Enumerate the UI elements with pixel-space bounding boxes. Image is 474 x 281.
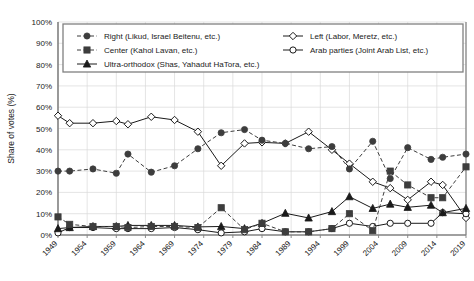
data-point-marker <box>329 226 335 232</box>
data-point-marker <box>67 168 73 174</box>
data-point-marker <box>346 193 353 200</box>
x-axis-tick-label: 1954 <box>70 239 89 258</box>
data-point-marker <box>194 128 201 135</box>
data-point-marker <box>148 169 154 175</box>
legend-label-right: Right (Likud, Israel Beitenu, etc.) <box>104 32 220 41</box>
data-point-marker <box>148 113 155 120</box>
legend-label-ultra_orthodox: Ultra-orthodox (Shas, Yahadut HaTora, et… <box>104 60 260 69</box>
data-point-marker <box>90 166 96 172</box>
data-point-marker <box>84 47 90 53</box>
data-point-marker <box>55 214 61 220</box>
x-axis-tick-label: 1994 <box>303 239 322 258</box>
data-point-marker <box>428 195 434 201</box>
x-axis-tick-label: 1974 <box>186 239 205 258</box>
y-axis-tick-label: 10% <box>36 210 52 219</box>
y-axis-tick-label: 90% <box>36 39 52 48</box>
y-axis-tick-label: 20% <box>36 188 52 197</box>
data-point-marker <box>195 224 201 230</box>
data-point-marker <box>387 200 394 207</box>
x-axis-tick-label: 1949 <box>40 239 59 258</box>
data-point-marker <box>90 223 96 229</box>
x-axis-tick-label: 1999 <box>332 239 351 258</box>
data-point-marker <box>67 221 73 227</box>
x-axis-tick-label: 1979 <box>215 239 234 258</box>
legend-label-left: Left (Labor, Meretz, etc.) <box>310 32 397 41</box>
data-point-marker <box>113 170 119 176</box>
data-point-marker <box>55 168 61 174</box>
data-point-marker <box>259 220 265 226</box>
y-axis-tick-labels: 0%10%20%30%40%50%60%70%80%90%100% <box>32 18 52 240</box>
data-point-marker <box>387 175 393 181</box>
data-point-marker <box>387 168 393 174</box>
data-point-marker <box>370 228 376 234</box>
y-axis-tick-label: 80% <box>36 61 52 70</box>
legend-label-arab: Arab parties (Joint Arab List, etc.) <box>310 46 429 55</box>
x-axis-tick-label: 1984 <box>244 239 263 258</box>
data-point-marker <box>440 154 446 160</box>
y-axis-tick-label: 40% <box>36 146 52 155</box>
data-point-marker <box>171 116 178 123</box>
x-axis-tick-labels: 1949195419591964196919741979198419891994… <box>40 235 467 258</box>
y-axis-title: Share of votes (%) <box>6 93 16 164</box>
vote-share-line-chart: 0%10%20%30%40%50%60%70%80%90%100%Share o… <box>0 0 474 281</box>
data-point-marker <box>171 223 177 229</box>
data-point-marker <box>54 112 61 119</box>
data-point-marker <box>329 144 335 150</box>
data-point-marker <box>195 146 201 152</box>
legend: Right (Likud, Israel Beitenu, etc.)Cente… <box>63 24 463 72</box>
legend-item-ultra_orthodox[interactable]: Ultra-orthodox (Shas, Yahadut HaTora, et… <box>77 60 260 69</box>
data-point-marker <box>282 209 289 216</box>
data-point-marker <box>427 201 434 208</box>
data-point-marker <box>440 195 446 201</box>
x-axis-tick-label: 1964 <box>128 239 147 258</box>
data-point-marker <box>148 223 154 229</box>
legend-label-center: Center (Kahol Lavan, etc.) <box>104 46 198 55</box>
data-point-marker <box>171 163 177 169</box>
data-point-marker <box>282 140 288 146</box>
data-point-marker <box>241 227 247 233</box>
y-axis-tick-label: 0% <box>40 231 52 240</box>
data-point-marker <box>405 220 411 226</box>
data-point-marker <box>463 151 469 157</box>
data-point-marker <box>125 151 131 157</box>
data-point-marker <box>306 146 312 152</box>
x-axis-tick-label: 2004 <box>361 239 380 258</box>
y-axis-tick-label: 50% <box>36 125 52 134</box>
data-point-marker <box>463 164 469 170</box>
chart-container: 0%10%20%30%40%50%60%70%80%90%100%Share o… <box>0 0 474 281</box>
data-point-marker <box>428 156 434 162</box>
x-axis-tick-label: 2009 <box>390 239 409 258</box>
data-point-marker <box>405 145 411 151</box>
data-point-marker <box>89 119 96 126</box>
y-axis-tick-label: 30% <box>36 167 52 176</box>
x-axis-tick-label: 2019 <box>448 239 467 258</box>
data-point-marker <box>387 184 394 191</box>
data-point-marker <box>66 119 73 126</box>
y-axis-tick-label: 100% <box>32 18 52 27</box>
x-axis-tick-label: 1989 <box>274 239 293 258</box>
data-point-marker <box>346 211 352 217</box>
data-point-marker <box>306 229 312 235</box>
x-axis-tick-label: 1969 <box>157 239 176 258</box>
data-point-marker <box>290 47 296 53</box>
data-point-marker <box>439 181 446 188</box>
data-point-marker <box>346 220 352 226</box>
data-point-marker <box>370 138 376 144</box>
data-point-marker <box>428 220 434 226</box>
x-axis-tick-label: 2014 <box>419 239 438 258</box>
data-point-marker <box>124 121 131 128</box>
data-point-marker <box>387 220 393 226</box>
data-point-marker <box>259 137 265 143</box>
data-point-marker <box>241 126 247 132</box>
data-point-marker <box>328 208 335 215</box>
data-point-marker <box>113 117 120 124</box>
x-axis-tick-label: 1959 <box>99 239 118 258</box>
data-point-marker <box>282 229 288 235</box>
data-point-marker <box>218 130 224 136</box>
data-point-marker <box>218 205 224 211</box>
data-point-marker <box>218 230 224 236</box>
y-axis-tick-label: 60% <box>36 103 52 112</box>
data-point-marker <box>113 223 119 229</box>
data-point-marker <box>405 182 411 188</box>
data-point-marker <box>125 224 131 230</box>
